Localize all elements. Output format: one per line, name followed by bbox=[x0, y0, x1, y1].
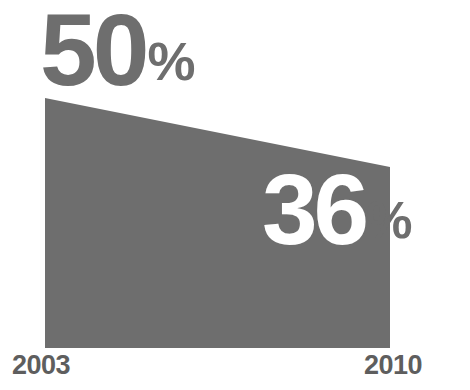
end-value-percent-symbol: % bbox=[366, 194, 412, 246]
end-value-number: 36 bbox=[262, 168, 365, 250]
infographic-chart: 50 % 36 % 2003 2010 bbox=[0, 0, 470, 390]
start-value-label: 50 % bbox=[40, 8, 193, 94]
x-axis-label-end-year: 2010 bbox=[364, 352, 422, 379]
end-value-label: 36 % bbox=[262, 168, 411, 250]
x-axis-labels: 2003 2010 bbox=[0, 352, 470, 386]
chart-plot-area: 50 % 36 % 2003 2010 bbox=[0, 0, 470, 390]
x-axis-label-start-year: 2003 bbox=[12, 352, 70, 379]
start-value-number: 50 bbox=[40, 8, 145, 94]
start-value-percent-symbol: % bbox=[147, 34, 195, 88]
